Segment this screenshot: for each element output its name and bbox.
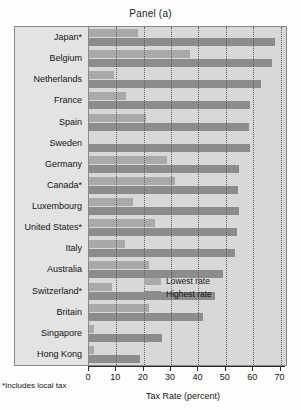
bar-lowest-rate bbox=[89, 304, 149, 312]
bar-lowest-rate bbox=[89, 240, 125, 248]
bar-lowest-rate bbox=[89, 283, 112, 291]
category-label: United States* bbox=[24, 223, 82, 232]
legend-label-lowest-rate: Lowest rate bbox=[166, 276, 210, 286]
x-axis-tick bbox=[197, 367, 198, 371]
category-label: Netherlands bbox=[33, 75, 82, 84]
legend-swatch-lowest-rate bbox=[144, 278, 161, 285]
bar-highest-rate bbox=[89, 313, 203, 321]
x-axis-tick bbox=[143, 367, 144, 371]
category-label: Canada* bbox=[47, 181, 82, 190]
gridline bbox=[253, 27, 255, 365]
gridline bbox=[144, 27, 146, 365]
bar-lowest-rate bbox=[89, 29, 138, 37]
legend-label-highest-rate: Highest rate bbox=[166, 289, 212, 299]
panel-title: Panel (a) bbox=[0, 8, 301, 19]
category-label: Spain bbox=[59, 118, 82, 127]
category-label: Germany bbox=[45, 160, 82, 169]
legend-item-highest-rate: Highest rate bbox=[144, 289, 212, 299]
bar-lowest-rate bbox=[89, 50, 190, 58]
bar-lowest-rate bbox=[89, 92, 126, 100]
x-axis-tick bbox=[170, 367, 171, 371]
category-label: France bbox=[54, 96, 82, 105]
x-axis-tick bbox=[280, 367, 281, 371]
category-label: Britain bbox=[56, 308, 82, 317]
chart-legend: Lowest rate Highest rate bbox=[144, 276, 212, 302]
x-axis-tick bbox=[225, 367, 226, 371]
bar-highest-rate bbox=[89, 186, 238, 194]
figure-panel-a: Panel (a) Japan*BelgiumNetherlandsFrance… bbox=[0, 0, 301, 410]
category-label: Australia bbox=[47, 265, 82, 274]
bar-lowest-rate bbox=[89, 71, 114, 79]
bar-lowest-rate bbox=[89, 156, 167, 164]
x-axis-tick-label: 0 bbox=[85, 372, 90, 382]
bar-lowest-rate bbox=[89, 177, 175, 185]
gridline bbox=[116, 27, 118, 365]
category-label: Italy bbox=[65, 244, 82, 253]
x-axis-tick bbox=[88, 367, 89, 371]
x-axis-tick bbox=[115, 367, 116, 371]
gridline bbox=[198, 27, 200, 365]
category-label: Belgium bbox=[49, 54, 82, 63]
bar-lowest-rate bbox=[89, 261, 149, 269]
x-axis-tick-label: 10 bbox=[110, 372, 120, 382]
category-label: Sweden bbox=[49, 139, 82, 148]
bar-highest-rate bbox=[89, 207, 239, 215]
bar-highest-rate bbox=[89, 334, 162, 342]
category-label: Luxembourg bbox=[32, 202, 82, 211]
x-axis-tick-label: 30 bbox=[165, 372, 175, 382]
x-axis-tick bbox=[252, 367, 253, 371]
legend-item-lowest-rate: Lowest rate bbox=[144, 276, 212, 286]
x-axis-tick-label: 70 bbox=[275, 372, 285, 382]
bar-highest-rate bbox=[89, 165, 239, 173]
bar-highest-rate bbox=[89, 80, 261, 88]
category-label-column: Japan*BelgiumNetherlandsFranceSpainSwede… bbox=[15, 27, 89, 365]
category-label: Switzerland* bbox=[32, 287, 82, 296]
gridline bbox=[281, 27, 283, 365]
category-label: Hong Kong bbox=[37, 350, 82, 359]
x-axis: 010203040506070 bbox=[88, 366, 285, 368]
bars-plot-area bbox=[89, 27, 286, 365]
bar-lowest-rate bbox=[89, 325, 94, 333]
category-label: Japan* bbox=[54, 33, 82, 42]
bar-lowest-rate bbox=[89, 346, 94, 354]
x-axis-tick-label: 60 bbox=[247, 372, 257, 382]
gridline bbox=[171, 27, 173, 365]
bar-highest-rate bbox=[89, 228, 237, 236]
plot-frame: Japan*BelgiumNetherlandsFranceSpainSwede… bbox=[14, 26, 287, 366]
bar-highest-rate bbox=[89, 355, 140, 363]
x-axis-tick-label: 20 bbox=[138, 372, 148, 382]
gridline bbox=[226, 27, 228, 365]
bar-lowest-rate bbox=[89, 198, 133, 206]
bar-highest-rate bbox=[89, 249, 235, 257]
x-axis-tick-label: 40 bbox=[192, 372, 202, 382]
category-label: Singapore bbox=[41, 329, 82, 338]
x-axis-title: Tax Rate (percent) bbox=[88, 391, 278, 401]
footnote: *Includes local tax bbox=[2, 381, 66, 390]
x-axis-tick-label: 50 bbox=[220, 372, 230, 382]
legend-swatch-highest-rate bbox=[144, 291, 161, 298]
